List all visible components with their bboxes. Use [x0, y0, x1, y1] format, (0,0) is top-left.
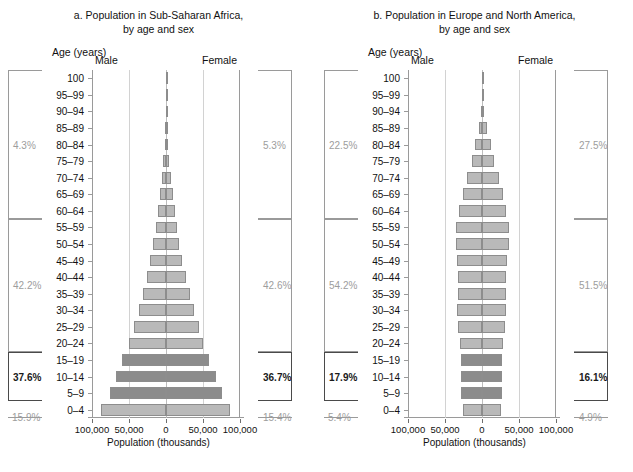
bar-male [139, 304, 166, 316]
x-tick-mark [445, 419, 446, 423]
bracket-percentage: 5.3% [263, 139, 286, 150]
x-tick-label: 0 [479, 424, 484, 435]
chart-title-b: b. Population in Europe and North Americ… [318, 8, 631, 36]
bar-male [153, 238, 166, 250]
bracket-percentage: 42.6% [263, 280, 291, 291]
age-tick-label: 80–84 [56, 139, 84, 150]
bar-male [467, 172, 482, 184]
age-tick-label: 55–59 [56, 222, 84, 233]
bar-male [456, 238, 482, 250]
bar-female [482, 122, 487, 134]
bar-male [156, 222, 166, 234]
bar-female [482, 271, 506, 283]
bar-female [166, 155, 169, 167]
x-tick-mark [519, 419, 520, 423]
bar-male [134, 321, 166, 333]
female-side-label: Female [518, 54, 553, 66]
x-tick-label: 100,000 [391, 424, 425, 435]
bar-female [166, 304, 194, 316]
x-axis-a: 100,00050,000050,000100,000 [92, 419, 240, 435]
age-tick-label: 60–64 [372, 205, 400, 216]
bar-male [458, 271, 482, 283]
bar-female [166, 122, 168, 134]
x-tick-label: 50,000 [430, 424, 459, 435]
bar-female [482, 387, 502, 399]
bar-female [482, 89, 484, 101]
bar-female [482, 255, 507, 267]
x-axis-b: 100,00050,000050,000100,000 [408, 419, 556, 435]
bar-female [166, 188, 173, 200]
age-tick-label: 95–99 [56, 89, 84, 100]
bracket-percentage: 4.9% [579, 411, 602, 422]
bar-male [110, 387, 166, 399]
bar-male [158, 205, 166, 217]
age-tick-label: 0–4 [383, 404, 400, 415]
bar-female [166, 139, 168, 151]
bar-male [461, 371, 482, 383]
population-pyramid-figure: a. Population in Sub-Saharan Africa,by a… [0, 0, 633, 472]
age-tick-label: 45–49 [372, 255, 400, 266]
bracket-right: 5.3% [258, 70, 292, 219]
bracket-right: 16.1% [574, 352, 608, 402]
gridline [445, 70, 446, 418]
age-tick-label: 90–94 [372, 106, 400, 117]
chart-panel-a: a. Population in Sub-Saharan Africa,by a… [2, 0, 315, 472]
age-tick-label: 15–19 [56, 355, 84, 366]
bracket-right: 27.5% [574, 70, 608, 219]
bracket-percentage: 22.5% [329, 139, 357, 150]
age-tick-label: 15–19 [372, 355, 400, 366]
bar-female [482, 222, 509, 234]
bar-female [482, 404, 501, 416]
age-tick-label: 100 [67, 73, 84, 84]
bar-female [482, 238, 509, 250]
bar-female [166, 354, 209, 366]
bracket-right: 42.6% [258, 219, 292, 352]
x-tick-mark [92, 419, 93, 423]
bar-female [482, 288, 506, 300]
male-side-label: Male [95, 54, 118, 66]
bracket-right: 36.7% [258, 352, 292, 402]
age-tick-label: 75–79 [56, 156, 84, 167]
bar-male [129, 338, 166, 350]
x-tick-label: 50,000 [114, 424, 143, 435]
bracket-percentage: 54.2% [329, 280, 357, 291]
bracket-percentage: 17.9% [329, 371, 357, 382]
bar-male [460, 338, 482, 350]
bar-female [166, 172, 171, 184]
age-tick-label: 85–89 [372, 123, 400, 134]
bar-female [166, 106, 168, 118]
bracket-right: 51.5% [574, 219, 608, 352]
bar-male [122, 354, 166, 366]
age-tick-label: 30–34 [56, 305, 84, 316]
bracket-right: 4.9% [574, 401, 608, 418]
bar-female [166, 271, 186, 283]
bar-female [166, 205, 175, 217]
age-tick-label: 70–74 [372, 172, 400, 183]
bracket-percentage: 51.5% [579, 280, 607, 291]
x-tick-mark [166, 419, 167, 423]
age-tick-label: 90–94 [56, 106, 84, 117]
x-tick-mark [129, 419, 130, 423]
bracket-percentage: 37.6% [13, 371, 41, 382]
bracket-percentage: 36.7% [263, 371, 291, 382]
bar-female [482, 188, 503, 200]
bar-female [166, 338, 203, 350]
female-side-label: Female [202, 54, 237, 66]
age-tick-label: 25–29 [56, 321, 84, 332]
x-tick-label: 50,000 [504, 424, 533, 435]
bracket-right: 15.4% [258, 401, 292, 418]
age-tick-label: 35–39 [56, 288, 84, 299]
bracket-left: 37.6% [8, 352, 42, 402]
bar-female [482, 354, 502, 366]
bar-female [166, 288, 190, 300]
bracket-left: 5.4% [324, 401, 358, 418]
age-label-column-b: 10095–9990–9485–8980–8475–7970–7465–6960… [352, 70, 404, 418]
plot-frame-border-l [92, 70, 93, 418]
age-tick-label: 10–14 [56, 371, 84, 382]
age-tick-label: 50–54 [372, 239, 400, 250]
age-tick-label: 25–29 [372, 321, 400, 332]
x-tick-label: 100,000 [539, 424, 573, 435]
x-tick-label: 0 [163, 424, 168, 435]
bar-female [166, 255, 182, 267]
bar-female [166, 371, 216, 383]
